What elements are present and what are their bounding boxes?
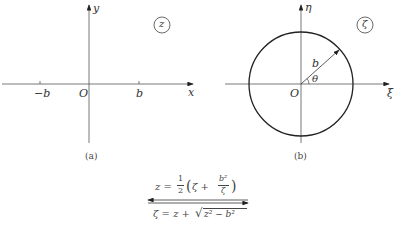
xi-axis-label: ξ bbox=[387, 88, 393, 99]
tick-pos-b-label: b bbox=[136, 88, 143, 99]
zeta-plane-label: ζ bbox=[362, 19, 367, 29]
radius-arrow bbox=[301, 50, 339, 84]
theta-label: θ bbox=[312, 74, 318, 84]
frac-den: ζ bbox=[221, 187, 225, 195]
half-num: 1 bbox=[178, 175, 183, 183]
origin-label-b: O bbox=[290, 88, 299, 99]
sqrt-sign: √ bbox=[195, 207, 203, 219]
caption-b: (b) bbox=[294, 152, 307, 161]
z-plane-label: z bbox=[159, 19, 164, 29]
paren-open: ( bbox=[186, 179, 191, 193]
paren-close: ) bbox=[231, 179, 236, 193]
forward-lhs: z = bbox=[155, 182, 172, 192]
x-axis-label: x bbox=[188, 87, 194, 98]
panel-a-axes bbox=[2, 5, 193, 143]
half-den: 2 bbox=[178, 187, 183, 195]
frac-num: b² bbox=[219, 175, 227, 183]
origin-label: O bbox=[79, 88, 88, 99]
radius-label: b bbox=[312, 58, 319, 69]
forward-zeta: ζ + bbox=[192, 182, 209, 192]
tick-neg-b-label: −b bbox=[34, 88, 50, 99]
theta-arc bbox=[307, 79, 309, 85]
inverse-lhs: ζ = z + bbox=[153, 209, 190, 219]
eta-axis-label: η bbox=[305, 2, 312, 13]
y-axis-label: y bbox=[93, 3, 99, 14]
caption-a: (a) bbox=[85, 152, 97, 161]
mapping-arrows bbox=[148, 200, 248, 203]
inverse-radicand: z² − b² bbox=[204, 210, 235, 219]
